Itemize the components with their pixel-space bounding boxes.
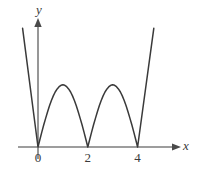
- graph-figure: y x 0 2 4: [0, 0, 198, 182]
- y-axis-label: y: [36, 3, 42, 16]
- x-tick-label-0: 0: [31, 151, 45, 164]
- y-axis-arrowhead: [34, 18, 41, 27]
- x-axis-arrowhead: [172, 143, 181, 150]
- x-tick-label-4: 4: [131, 151, 145, 164]
- plot-canvas: [0, 0, 198, 182]
- curve-path-arches: [23, 28, 154, 147]
- x-tick-label-2: 2: [81, 151, 95, 164]
- x-axis-label: x: [183, 139, 189, 152]
